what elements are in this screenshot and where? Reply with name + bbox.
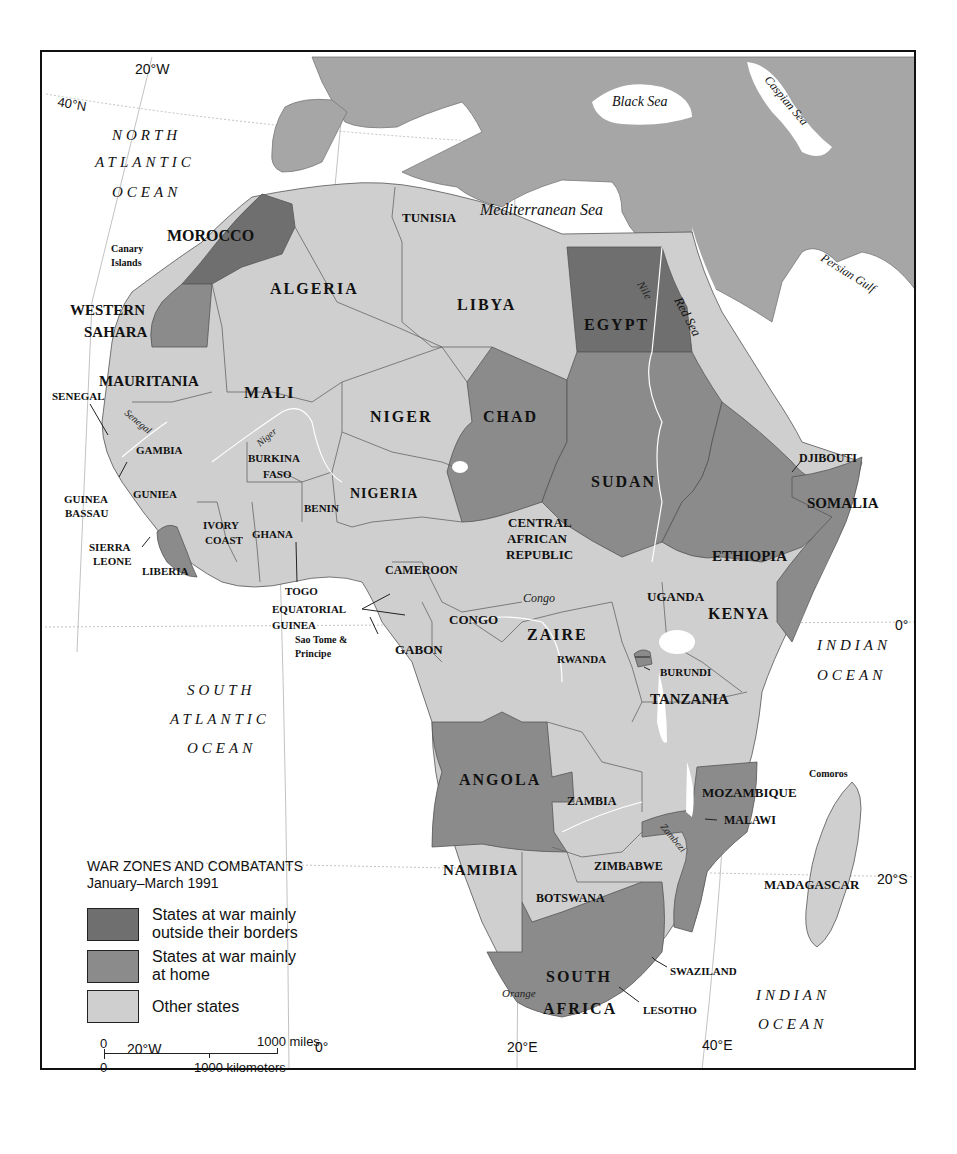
gambia-label: GAMBIA (136, 444, 183, 456)
zimbabwe-label: ZIMBABWE (594, 859, 663, 873)
legend-item-other: Other states (87, 990, 303, 1023)
scale-tick (209, 1053, 210, 1058)
algeria-label: ALGERIA (270, 280, 359, 297)
sudan-label: SUDAN (591, 473, 656, 490)
congo-river-label: Congo (523, 591, 555, 605)
indian-ocean-label: OCEAN (817, 667, 886, 683)
indian-ocean-label: OCEAN (758, 1016, 827, 1032)
tanzania-label: TANZANIA (650, 691, 729, 707)
south-africa-label: SOUTH (546, 968, 612, 985)
legend-subtitle: January–March 1991 (87, 875, 303, 892)
indian-ocean-label: INDIAN (816, 637, 891, 653)
togo-label: TOGO (285, 585, 318, 597)
mediterranean-sea-label: Mediterranean Sea (479, 201, 603, 218)
car-label: AFRICAN (507, 531, 568, 546)
somalia-label: SOMALIA (807, 495, 879, 511)
lesotho-label: LESOTHO (643, 1004, 697, 1016)
black-sea-label: Black Sea (612, 94, 668, 109)
namibia-label: NAMIBIA (443, 862, 518, 878)
ethiopia-label: ETHIOPIA (712, 548, 787, 564)
legend-swatch-other (87, 990, 139, 1023)
madagascar-label: MADAGASCAR (764, 877, 860, 892)
kenya-label: KENYA (708, 605, 769, 622)
uganda-label: UGANDA (647, 589, 705, 604)
legend-item-war-outside: States at war mainly outside their borde… (87, 906, 303, 942)
ivory-coast-label: IVORY (203, 519, 239, 531)
liberia-label: LIBERIA (142, 565, 189, 577)
scale-line (104, 1053, 278, 1054)
gabon-label: GABON (395, 642, 443, 657)
morocco-label: MOROCCO (167, 227, 254, 244)
legend-label: outside their borders (152, 924, 298, 942)
equatorial-guinea-label: EQUATORIAL (272, 603, 346, 615)
scale-bar: 0 1000 miles 0 1000 kilometers (100, 1036, 300, 1086)
ivory-coast-label: COAST (205, 534, 244, 546)
lon-40e-label: 40°E (702, 1037, 733, 1053)
swaziland-label: SWAZILAND (670, 965, 737, 977)
map-legend: WAR ZONES AND COMBATANTS January–March 1… (87, 858, 303, 1023)
legend-item-war-home: States at war mainly at home (87, 948, 303, 984)
north-atlantic-label: NORTH (111, 127, 181, 143)
legend-swatch-war-outside (87, 908, 139, 941)
south-africa-label: AFRICA (543, 1000, 617, 1017)
sierra-leone-label: SIERRA (89, 541, 131, 553)
scale-km-label: 1000 kilometers (194, 1060, 286, 1075)
nigeria-label: NIGERIA (350, 486, 418, 501)
western-sahara-label: SAHARA (84, 324, 148, 340)
legend-label: States at war mainly (152, 906, 298, 924)
car-label: REPUBLIC (506, 547, 573, 562)
orange-river-label: Orange (502, 987, 536, 999)
lat-40n-label: 40°N (56, 94, 87, 114)
lon-20e-label: 20°E (507, 1039, 538, 1055)
scale-miles-label: 1000 miles (257, 1034, 320, 1049)
chad-label: CHAD (483, 408, 538, 425)
scale-tick (104, 1049, 105, 1059)
car-label: CENTRAL (508, 515, 572, 530)
djibouti-label: DJIBOUTI (799, 451, 857, 465)
comoros-label: Comoros (809, 768, 848, 779)
equatorial-guinea-label: GUINEA (272, 619, 316, 631)
burkina-faso-label: BURKINA (248, 452, 300, 464)
botswana-label: BOTSWANA (536, 891, 605, 905)
south-atlantic-label: OCEAN (187, 740, 256, 756)
tunisia-label: TUNISIA (402, 210, 457, 225)
canary-islands-label: Canary (111, 243, 143, 254)
sierra-leone-label: LEONE (93, 555, 132, 567)
zaire-label: ZAIRE (527, 626, 588, 643)
lat-20s-label: 20°S (877, 871, 908, 887)
senegal-label: SENEGAL (52, 390, 105, 402)
sao-tome-label: Sao Tome & (295, 634, 347, 645)
congo-label: CONGO (449, 612, 498, 627)
canary-islands-label: Islands (111, 257, 142, 268)
mauritania-label: MAURITANIA (99, 373, 199, 389)
zambia-label: ZAMBIA (567, 794, 617, 808)
burundi-label: BURUNDI (660, 666, 711, 678)
north-atlantic-label: ATLANTIC (94, 154, 195, 170)
rwanda-label: RWANDA (557, 653, 606, 665)
angola-label: ANGOLA (459, 771, 541, 788)
scale-tick (277, 1048, 278, 1053)
legend-label: Other states (152, 998, 239, 1016)
scale-km-zero: 0 (100, 1060, 107, 1075)
libya-label: LIBYA (457, 296, 516, 313)
indian-ocean-label: INDIAN (755, 987, 830, 1003)
guinea-bissau-label: BASSAU (65, 507, 108, 519)
niger-label: NIGER (370, 408, 432, 425)
south-atlantic-label: ATLANTIC (169, 711, 270, 727)
egypt-label: EGYPT (584, 316, 649, 333)
legend-label: at home (152, 966, 296, 984)
malawi-label: MALAWI (724, 813, 776, 827)
legend-title: WAR ZONES AND COMBATANTS (87, 858, 303, 875)
legend-label: States at war mainly (152, 948, 296, 966)
mozambique-label: MOZAMBIQUE (702, 785, 797, 800)
ghana-label: GHANA (252, 528, 293, 540)
guinea-label: GUNIEA (133, 488, 177, 500)
mali-label: MALI (244, 384, 296, 401)
south-atlantic-label: SOUTH (187, 682, 255, 698)
legend-swatch-war-home (87, 950, 139, 983)
equator-label: 0° (895, 617, 908, 633)
guinea-bissau-label: GUINEA (64, 493, 108, 505)
lon-20w-top-label: 20°W (135, 61, 170, 77)
cameroon-label: CAMEROON (385, 563, 458, 577)
benin-label: BENIN (304, 502, 339, 514)
